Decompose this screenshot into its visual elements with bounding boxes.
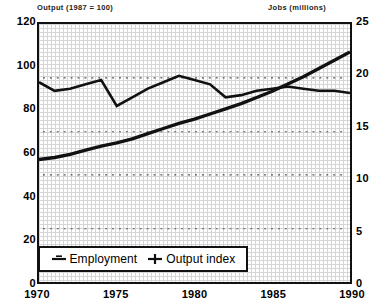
- left-tick-60: 60: [23, 146, 36, 158]
- right-tick-25: 25: [356, 15, 369, 27]
- x-tick-1980: 1980: [182, 288, 208, 300]
- gridlines: [43, 78, 346, 229]
- legend-label-employment: Employment: [70, 252, 138, 266]
- x-tick-1970: 1970: [24, 288, 50, 300]
- chart-container: Output (1987 = 100) Jobs (millions) 0204…: [0, 0, 382, 306]
- chart-legend: Employment Output index: [38, 246, 248, 272]
- right-tick-15: 15: [356, 120, 369, 132]
- series-line-output-index: [39, 76, 350, 106]
- x-tick-1985: 1985: [260, 288, 286, 300]
- plus-marker-icon: [147, 253, 163, 265]
- plot-area: [37, 22, 352, 284]
- legend-item-employment: Employment: [51, 252, 138, 266]
- left-tick-80: 80: [23, 102, 36, 114]
- left-axis-title: Output (1987 = 100): [37, 3, 113, 12]
- left-tick-20: 20: [23, 233, 36, 245]
- x-tick-1975: 1975: [103, 288, 129, 300]
- right-tick-10: 10: [356, 172, 369, 184]
- right-tick-20: 20: [356, 67, 369, 79]
- left-tick-40: 40: [23, 190, 36, 202]
- series-line-employment: [39, 52, 350, 160]
- legend-label-output-index: Output index: [166, 252, 235, 266]
- legend-item-output-index: Output index: [147, 252, 235, 266]
- line-marker-icon: [51, 253, 67, 265]
- left-tick-100: 100: [17, 59, 36, 71]
- right-axis-title: Jobs (millions): [268, 3, 326, 12]
- x-tick-1990: 1990: [339, 288, 365, 300]
- series-canvas: [39, 24, 350, 283]
- left-tick-120: 120: [17, 15, 36, 27]
- right-tick-5: 5: [356, 225, 362, 237]
